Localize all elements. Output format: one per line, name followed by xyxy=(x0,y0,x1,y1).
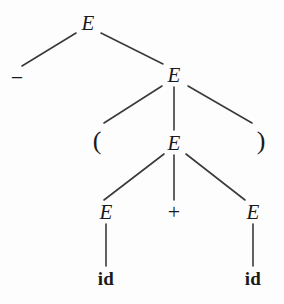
tree-node-e-root: E xyxy=(82,13,95,34)
tree-node-t-id-right: id xyxy=(245,269,261,288)
tree-node-e-level3: E xyxy=(168,133,181,154)
tree-edge-e-root-to-t-minus xyxy=(22,33,76,66)
tree-node-e-level2: E xyxy=(168,65,181,86)
tree-edge-e-level2-to-t-rparen xyxy=(188,86,252,123)
tree-edge-e-level3-to-e-left-leaf xyxy=(104,154,164,200)
tree-edge-layer xyxy=(0,0,284,304)
tree-node-t-id-left: id xyxy=(98,269,114,288)
tree-edge-e-level3-to-e-right-leaf xyxy=(186,154,245,200)
parse-tree-figure: E−E(E)E+Eidid xyxy=(0,0,284,304)
tree-node-t-plus: + xyxy=(168,201,180,223)
tree-node-e-left-leaf: E xyxy=(100,202,113,223)
tree-node-t-minus: − xyxy=(11,67,23,89)
tree-edge-e-level2-to-t-lparen xyxy=(104,86,162,123)
tree-node-t-lparen: ( xyxy=(93,128,102,154)
tree-node-t-rparen: ) xyxy=(257,128,266,154)
tree-node-e-right-leaf: E xyxy=(247,202,260,223)
tree-edge-e-root-to-e-level2 xyxy=(101,33,163,64)
